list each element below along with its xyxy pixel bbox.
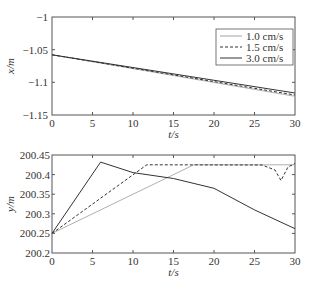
bottom-series-1cm [52, 165, 295, 234]
top-xaxis-label: t/s [168, 128, 178, 140]
bottom-chart: 200.45 200.4 200.35 200.3 200.25 200.2 0… [4, 149, 301, 278]
top-ytick-label: −1.1 [28, 76, 48, 88]
top-xtick-label: 5 [90, 117, 96, 129]
bottom-xtick-label: 5 [90, 255, 96, 267]
bottom-ytick-label: 200.45 [20, 149, 51, 161]
bottom-yaxis-label: y/m [4, 196, 16, 213]
bottom-plot-frame [52, 155, 295, 253]
top-ytick-label: −1.15 [23, 109, 49, 121]
top-ytick-label: −1 [36, 11, 48, 23]
top-xtick-label: 25 [249, 117, 261, 129]
figure: −1 −1.05 −1.1 −1.15 0 5 10 15 20 25 30 t… [0, 0, 313, 288]
top-xtick-label: 30 [290, 117, 302, 129]
bottom-ytick-label: 200.2 [25, 247, 50, 259]
top-chart: −1 −1.05 −1.1 −1.15 0 5 10 15 20 25 30 t… [4, 11, 301, 140]
bottom-xtick-label: 25 [249, 255, 261, 267]
bottom-ytick-label: 200.35 [20, 188, 51, 200]
top-xtick-label: 10 [128, 117, 140, 129]
bottom-ytick-label: 200.4 [25, 169, 50, 181]
top-xtick-label: 20 [209, 117, 221, 129]
bottom-xtick-label: 30 [290, 255, 302, 267]
bottom-series-3cm [52, 162, 295, 233]
bottom-xtick-label: 0 [49, 255, 55, 267]
legend-label: 3.0 cm/s [246, 52, 283, 64]
bottom-ytick-label: 200.25 [20, 227, 51, 239]
bottom-ytick-label: 200.3 [25, 208, 50, 220]
bottom-xtick-label: 20 [209, 255, 221, 267]
bottom-xaxis-label: t/s [168, 266, 178, 278]
legend: 1.0 cm/s 1.5 cm/s 3.0 cm/s [216, 29, 293, 65]
bottom-xtick-label: 10 [128, 255, 140, 267]
top-yaxis-label: x/m [4, 58, 16, 75]
top-xtick-label: 0 [49, 117, 55, 129]
top-ytick-label: −1.05 [23, 44, 49, 56]
